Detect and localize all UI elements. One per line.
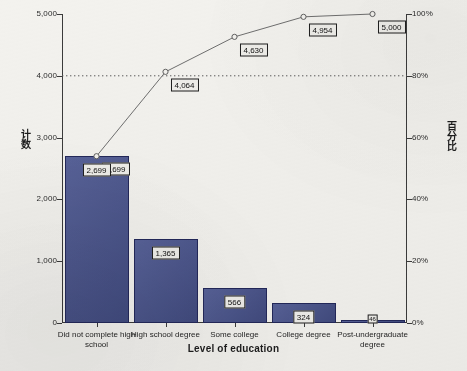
cumulative-value-label: 4,064 — [170, 78, 198, 91]
x-tick — [97, 323, 98, 327]
cumulative-point — [232, 34, 237, 39]
pareto-chart: 计数 百分比 Level of education 01,0002,0003,0… — [0, 0, 467, 371]
x-tick — [235, 323, 236, 327]
cumulative-point — [163, 69, 168, 74]
x-tick — [373, 323, 374, 327]
y-tick-label-left: 2,000 — [0, 194, 57, 203]
bar-value-label: 324 — [293, 310, 314, 323]
y-tick-label-right: 80% — [412, 71, 462, 80]
y-tick-label-left: 5,000 — [0, 9, 57, 18]
x-category-label: Post-undergraduate degree — [330, 330, 416, 349]
cumulative-point — [94, 154, 99, 159]
cumulative-point — [301, 14, 306, 19]
bar-value-label: 1,365 — [151, 246, 179, 259]
y-tick-label-left: 1,000 — [0, 256, 57, 265]
cumulative-point — [370, 11, 375, 16]
bar-value-label: 566 — [224, 296, 245, 309]
cumulative-value-label: 4,954 — [308, 23, 336, 36]
cumulative-value-label: 5,000 — [377, 21, 405, 34]
y-tick-left — [57, 323, 62, 324]
y-tick-label-left: 4,000 — [0, 71, 57, 80]
y-tick-label-left: 3,000 — [0, 133, 57, 142]
y-tick-label-left: 0 — [0, 318, 57, 327]
plot-area: 01,0002,0003,0004,0005,000 0%20%40%60%80… — [62, 14, 407, 323]
y-tick-label-right: 60% — [412, 133, 462, 142]
cumulative-value-label: 4,630 — [239, 43, 267, 56]
y-tick-label-right: 100% — [412, 9, 462, 18]
x-tick — [166, 323, 167, 327]
bar-value-label: 2,699 — [82, 164, 110, 177]
y-tick-label-right: 20% — [412, 256, 462, 265]
x-tick — [304, 323, 305, 327]
y-tick-label-right: 40% — [412, 194, 462, 203]
y-tick-label-right: 0% — [412, 318, 462, 327]
